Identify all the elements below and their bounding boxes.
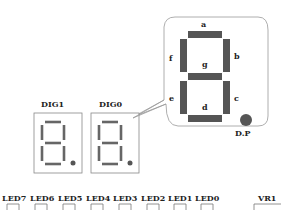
segment-f — [180, 39, 187, 72]
vr1-label: VR1 — [258, 193, 276, 203]
segment-d — [188, 115, 222, 122]
segment-label-a: a — [201, 19, 206, 29]
segment-b — [223, 39, 230, 72]
led-label-5: LED5 — [58, 193, 82, 203]
digit-dig1-dp — [71, 161, 76, 166]
segment-label-e: e — [169, 93, 174, 103]
segment-dp — [240, 114, 252, 126]
digit-label-dig1: DIG1 — [41, 99, 64, 109]
led-label-7: LED7 — [2, 193, 26, 203]
led-label-2: LED2 — [141, 193, 165, 203]
segment-label-g: g — [202, 59, 208, 69]
segment-label-b: b — [234, 51, 240, 61]
digit-label-dig0: DIG0 — [99, 99, 122, 109]
led-label-0: LED0 — [195, 193, 219, 203]
led-row: LED7 LED6 LED5 LED4 LED3 LED2 LED1 LED0 … — [0, 193, 281, 205]
digit-dig0-dp — [128, 161, 133, 166]
led-label-3: LED3 — [113, 193, 137, 203]
led-label-1: LED1 — [168, 193, 192, 203]
segment-label-c: c — [234, 93, 239, 103]
segment-label-f: f — [169, 53, 172, 63]
segment-label-d: d — [202, 102, 208, 112]
segment-c — [223, 81, 230, 114]
segment-label-dp: D.P — [235, 128, 250, 138]
segment-a — [188, 31, 222, 38]
segment-e — [180, 81, 187, 114]
led-label-6: LED6 — [30, 193, 54, 203]
segment-g — [188, 73, 222, 80]
led-label-4: LED4 — [86, 193, 110, 203]
